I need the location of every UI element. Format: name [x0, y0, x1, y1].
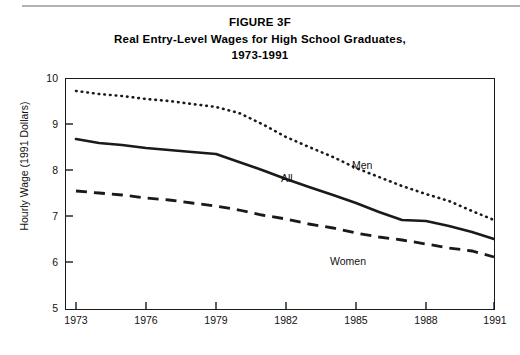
title-line-2: Real Entry-Level Wages for High School G…: [0, 31, 520, 48]
x-tick-1991: 1991: [473, 315, 517, 326]
y-axis-title: Hourly Wage (1991 Dollars): [18, 66, 30, 266]
y-tick-8: 8: [36, 165, 58, 176]
x-tick-1982: 1982: [264, 315, 308, 326]
figure-title: FIGURE 3F Real Entry-Level Wages for Hig…: [0, 14, 520, 64]
y-tick-9: 9: [36, 119, 58, 130]
series-line-women: [76, 191, 494, 257]
x-tick-1973: 1973: [54, 315, 98, 326]
y-axis-ticks: [65, 124, 73, 262]
page-edge-artifact: [22, 5, 520, 7]
y-tick-5: 5: [36, 303, 58, 314]
y-tick-10: 10: [36, 73, 58, 84]
title-line-1: FIGURE 3F: [0, 14, 520, 31]
series-label-all: All: [281, 172, 293, 184]
y-tick-7: 7: [36, 211, 58, 222]
figure-root: FIGURE 3F Real Entry-Level Wages for Hig…: [0, 0, 520, 355]
chart-plot-area: [65, 78, 495, 310]
series-label-women: Women: [330, 255, 366, 267]
series-label-men: Men: [352, 159, 372, 171]
series-line-all: [76, 139, 494, 239]
x-axis-ticks: [76, 302, 494, 310]
x-tick-1985: 1985: [334, 315, 378, 326]
y-tick-6: 6: [36, 257, 58, 268]
x-tick-1976: 1976: [124, 315, 168, 326]
x-tick-1979: 1979: [194, 315, 238, 326]
title-line-3: 1973-1991: [0, 47, 520, 64]
x-tick-1988: 1988: [404, 315, 448, 326]
series-line-men: [76, 91, 494, 220]
